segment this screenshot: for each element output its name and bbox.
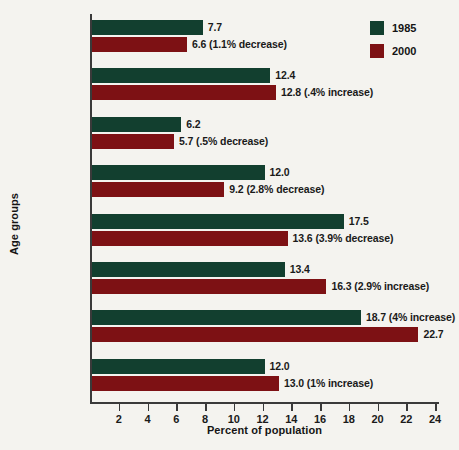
bar-value-label: 16.3 (2.9% increase)	[331, 279, 429, 294]
bar-value-label: 9.2 (2.8% decrease)	[229, 182, 324, 197]
bar-value-label: 12.0	[270, 359, 290, 374]
bottom-credit-strip	[0, 441, 459, 450]
x-tick	[378, 404, 380, 411]
legend-label: 2000	[392, 45, 416, 57]
bar-value-label: 5.7 (.5% decrease)	[179, 134, 268, 149]
bar-row-group: 14–176.25.7 (.5% decrease)	[92, 117, 459, 151]
x-tick	[234, 404, 236, 411]
bar-value-label: 18.7 (4% increase)	[366, 310, 455, 325]
bar-value-label: 12.4	[275, 68, 295, 83]
legend-swatch-icon	[370, 44, 384, 58]
x-tick	[406, 404, 408, 411]
bar-value-label: 22.7	[423, 327, 443, 342]
bar-2000-65-and-older	[92, 376, 279, 391]
bar-1985-18–24	[92, 165, 265, 180]
bar-2000-35–44	[92, 279, 326, 294]
legend-label: 1985	[392, 22, 416, 34]
legend-swatch-icon	[370, 21, 384, 35]
y-axis-title: Age groups	[8, 179, 20, 269]
legend-item-1985[interactable]: 1985	[370, 18, 416, 37]
bar-value-label: 17.5	[349, 214, 369, 229]
bar-row-group: 35–4413.416.3 (2.9% increase)	[92, 262, 459, 296]
bar-2000-18–24	[92, 182, 224, 197]
bar-value-label: 13.0 (1% increase)	[284, 376, 373, 391]
bar-value-label: 6.2	[186, 117, 200, 132]
bar-1985-younger-than-5	[92, 20, 203, 35]
bar-1985-35–44	[92, 262, 285, 277]
x-tick	[320, 404, 322, 411]
bar-1985-14–17	[92, 117, 181, 132]
bar-value-label: 12.8 (.4% increase)	[281, 85, 373, 100]
bar-2000-younger-than-5	[92, 37, 187, 52]
bar-value-label: 13.4	[290, 262, 310, 277]
legend: 19852000	[370, 18, 416, 64]
x-tick	[349, 404, 351, 411]
x-tick	[119, 404, 121, 411]
bar-1985-45–64	[92, 310, 361, 325]
x-axis-line	[90, 402, 439, 404]
bar-value-label: 13.6 (3.9% decrease)	[293, 231, 394, 246]
x-tick	[176, 404, 178, 411]
x-tick	[205, 404, 207, 411]
bar-row-group: 65 and older12.013.0 (1% increase)	[92, 359, 459, 393]
bar-2000-45–64	[92, 327, 418, 342]
x-tick	[291, 404, 293, 411]
bar-2000-14–17	[92, 134, 174, 149]
x-tick	[148, 404, 150, 411]
bar-1985-5–13	[92, 68, 270, 83]
bar-1985-65-and-older	[92, 359, 265, 374]
bar-row-group: 25–3417.513.6 (3.9% decrease)	[92, 214, 459, 248]
x-tick	[435, 404, 437, 411]
bar-2000-5–13	[92, 85, 276, 100]
bar-value-label: 6.6 (1.1% decrease)	[192, 37, 287, 52]
bar-chart: Younger than 57.76.6 (1.1% decrease)5–13…	[0, 0, 459, 450]
bar-value-label: 12.0	[270, 165, 290, 180]
x-axis-title: Percent of population	[90, 424, 439, 436]
x-tick	[263, 404, 265, 411]
bar-2000-25–34	[92, 231, 288, 246]
plot-area: Younger than 57.76.6 (1.1% decrease)5–13…	[90, 14, 459, 402]
bar-value-label: 7.7	[208, 20, 222, 35]
legend-item-2000[interactable]: 2000	[370, 41, 416, 60]
bar-1985-25–34	[92, 214, 344, 229]
bar-row-group: 5–1312.412.8 (.4% increase)	[92, 68, 459, 102]
bar-row-group: 18–2412.09.2 (2.8% decrease)	[92, 165, 459, 199]
bar-row-group: 45–6418.7 (4% increase)22.7	[92, 310, 459, 344]
